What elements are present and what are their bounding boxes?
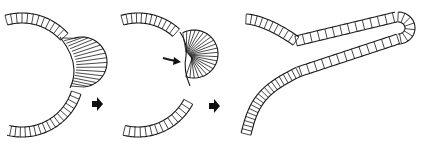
indicator-arrow-icon	[163, 57, 181, 65]
transition-arrow-2-icon	[209, 99, 220, 113]
panel-2-twisted-ribbon	[121, 13, 218, 137]
transition-arrow-1-icon	[92, 97, 103, 111]
diagram-canvas	[0, 0, 425, 151]
panel-1-c-shaped-ribbon	[5, 13, 107, 137]
panel-3-s-shaped-ribbon	[241, 12, 415, 135]
